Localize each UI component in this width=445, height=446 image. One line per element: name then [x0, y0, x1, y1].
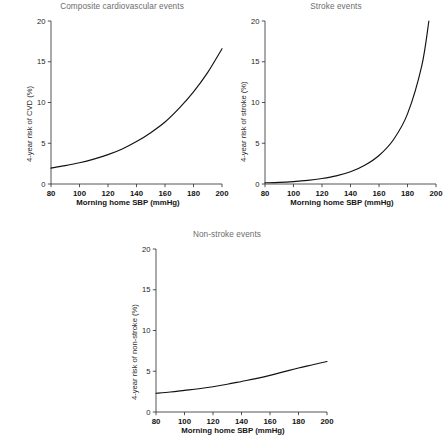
x-axis-label-composite: Morning home SBP (mmHg) [28, 198, 228, 207]
x-axis-label-stroke: Morning home SBP (mmHg) [242, 198, 442, 207]
y-tick-label: 0 [255, 180, 259, 189]
x-tick-label: 180 [187, 189, 201, 198]
chart-panel-composite: Composite cardiovascular events 4-year r… [14, 2, 230, 214]
x-tick-label: 80 [152, 417, 161, 426]
y-tick-label: 10 [142, 326, 150, 335]
y-tick-label: 10 [37, 98, 45, 107]
y-tick-label: 5 [146, 367, 150, 376]
x-tick-label: 100 [178, 417, 192, 426]
x-tick-label: 180 [401, 189, 415, 198]
plot-area-stroke: 0510152080100120140160180200 [228, 2, 444, 214]
y-tick-label: 20 [142, 245, 150, 254]
x-tick-label: 120 [101, 189, 115, 198]
data-curve [156, 361, 327, 393]
x-tick-label: 200 [320, 417, 334, 426]
chart-panel-nonstroke: Non-stroke events 4-year risk of non-str… [119, 230, 335, 442]
chart-panel-stroke: Stroke events 4-year risk of stroke (%) … [228, 2, 444, 214]
x-tick-label: 180 [292, 417, 306, 426]
x-tick-label: 100 [287, 189, 301, 198]
y-tick-label: 15 [142, 285, 150, 294]
x-tick-label: 140 [344, 189, 358, 198]
y-tick-label: 0 [146, 408, 150, 417]
plot-area-nonstroke: 0510152080100120140160180200 [119, 230, 335, 442]
x-tick-label: 140 [235, 417, 249, 426]
y-tick-label: 10 [251, 98, 259, 107]
data-curve [51, 49, 222, 168]
x-tick-label: 120 [206, 417, 220, 426]
data-curve [265, 21, 429, 183]
y-tick-label: 5 [41, 139, 45, 148]
x-tick-label: 80 [261, 189, 270, 198]
y-tick-label: 15 [251, 57, 259, 66]
y-tick-label: 0 [41, 180, 45, 189]
x-axis-label-nonstroke: Morning home SBP (mmHg) [133, 426, 333, 435]
x-tick-label: 80 [47, 189, 56, 198]
y-tick-label: 20 [37, 17, 45, 26]
y-tick-label: 5 [255, 139, 259, 148]
x-tick-label: 200 [429, 189, 443, 198]
y-tick-label: 15 [37, 57, 45, 66]
x-tick-label: 120 [315, 189, 329, 198]
plot-area-composite: 0510152080100120140160180200 [14, 2, 230, 214]
x-tick-label: 160 [372, 189, 386, 198]
x-tick-label: 160 [158, 189, 172, 198]
y-tick-label: 20 [251, 17, 259, 26]
x-tick-label: 160 [263, 417, 277, 426]
x-tick-label: 140 [130, 189, 144, 198]
x-tick-label: 100 [73, 189, 87, 198]
figure-panel-grid: Composite cardiovascular events 4-year r… [0, 0, 445, 446]
